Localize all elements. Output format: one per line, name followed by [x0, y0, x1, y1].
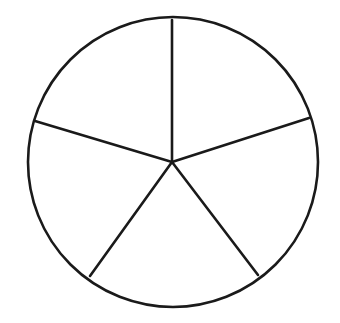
sector-divider-line-4 — [90, 162, 172, 276]
pie-divided-circle — [0, 0, 340, 323]
sector-divider-line-3 — [172, 162, 258, 275]
sector-divider-line-2 — [172, 118, 309, 162]
diagram-canvas — [0, 0, 340, 323]
sector-dividers — [35, 20, 309, 276]
sector-divider-line-5 — [35, 121, 172, 162]
